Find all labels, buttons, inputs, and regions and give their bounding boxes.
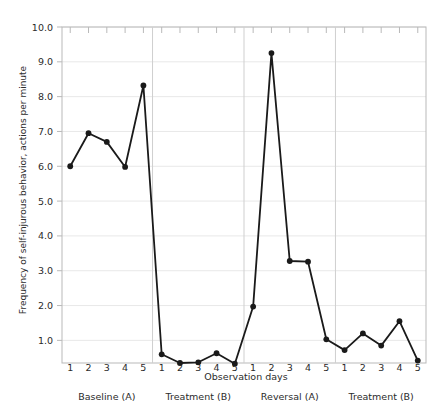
x-tick-label: 5 [140, 362, 146, 373]
data-point [159, 351, 165, 357]
data-point [397, 318, 403, 324]
x-axis-title: Observation days [204, 371, 287, 382]
x-tick-label: 2 [360, 362, 366, 373]
data-point [250, 304, 256, 310]
data-point [305, 259, 311, 265]
data-point [104, 139, 110, 145]
x-tick-label: 5 [323, 362, 329, 373]
y-tick-label: 6.0 [38, 161, 53, 172]
y-tick-label: 7.0 [38, 126, 53, 137]
phase-label: Treatment (B) [348, 391, 414, 402]
x-tick-label: 4 [396, 362, 402, 373]
phase-label: Treatment (B) [165, 391, 231, 402]
x-tick-label: 1 [159, 362, 165, 373]
phase-label: Reversal (A) [261, 391, 319, 402]
y-tick-label: 10.0 [32, 22, 53, 33]
data-point [232, 361, 238, 367]
data-point [67, 163, 73, 169]
x-tick-label: 1 [67, 362, 73, 373]
chart-background [0, 0, 433, 419]
data-point [86, 130, 92, 136]
chart-figure: 1.02.03.04.05.06.07.08.09.010.0 12345123… [0, 0, 433, 419]
data-point [177, 360, 183, 366]
y-tick-label: 2.0 [38, 300, 53, 311]
line-chart: 1.02.03.04.05.06.07.08.09.010.0 12345123… [0, 0, 433, 419]
y-tick-label: 4.0 [38, 230, 53, 241]
data-point [360, 331, 366, 337]
data-point [378, 343, 384, 349]
data-point [141, 83, 147, 89]
x-tick-label: 2 [85, 362, 91, 373]
y-axis-title: Frequency of self-injurous behavior, act… [18, 65, 28, 314]
x-tick-label: 3 [104, 362, 110, 373]
phase-label: Baseline (A) [78, 391, 135, 402]
x-tick-label: 4 [122, 362, 128, 373]
x-tick-label: 1 [342, 362, 348, 373]
data-point [122, 164, 128, 170]
y-tick-label: 8.0 [38, 91, 53, 102]
data-point [323, 336, 329, 342]
data-point [287, 258, 293, 264]
data-point [342, 347, 348, 353]
x-tick-label: 5 [415, 362, 421, 373]
y-tick-label: 3.0 [38, 265, 53, 276]
y-tick-label: 5.0 [38, 196, 53, 207]
data-point [195, 359, 201, 365]
data-point [214, 350, 220, 356]
y-tick-label: 9.0 [38, 56, 53, 67]
x-tick-label: 3 [378, 362, 384, 373]
x-tick-label: 4 [305, 362, 311, 373]
data-point [269, 50, 275, 56]
data-point [415, 358, 421, 364]
y-tick-label: 1.0 [38, 335, 53, 346]
